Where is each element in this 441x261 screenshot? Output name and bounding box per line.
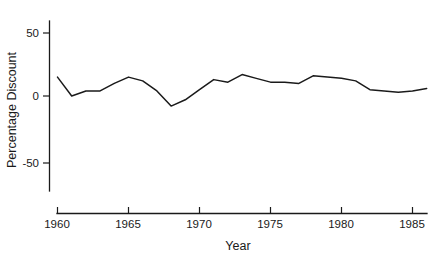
- x-axis-title: Year: [225, 239, 250, 253]
- y-tick-label-neg50: -50: [22, 157, 39, 169]
- chart-figure: 50 0 -50 Percentage Discount 1960 1965 1…: [0, 0, 441, 261]
- x-tick-label-1960: 1960: [44, 218, 70, 230]
- x-tick-label-1980: 1980: [328, 218, 354, 230]
- x-tick-label-1965: 1965: [115, 218, 141, 230]
- x-tick-label-1970: 1970: [186, 218, 212, 230]
- data-series-line: [58, 75, 427, 107]
- y-axis-title: Percentage Discount: [5, 51, 19, 168]
- y-tick-label-0: 0: [33, 90, 39, 102]
- line-chart: 50 0 -50 Percentage Discount 1960 1965 1…: [0, 0, 441, 261]
- x-tick-label-1985: 1985: [399, 218, 425, 230]
- y-tick-label-50: 50: [26, 27, 39, 39]
- x-tick-label-1975: 1975: [257, 218, 283, 230]
